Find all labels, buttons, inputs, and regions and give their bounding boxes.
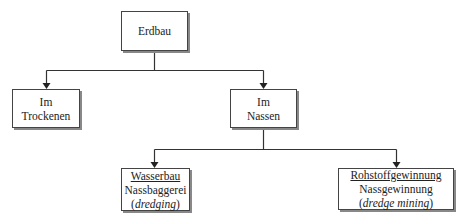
- node-rohstoffgewinnung: Rohstoffgewinnung Nassgewinnung (dredge …: [338, 168, 454, 210]
- node-label-line1: Im: [257, 95, 270, 109]
- node-subtitle: Nassgewinnung: [359, 182, 432, 196]
- node-wasserbau: Wasserbau Nassbaggerei (dredging): [121, 168, 190, 211]
- node-im-trockenen: Im Trockenen: [12, 89, 80, 128]
- node-title: Wasserbau: [131, 169, 181, 183]
- node-im-nassen: Im Nassen: [230, 89, 297, 128]
- node-label-line1: Im: [40, 95, 53, 109]
- node-label-line2: Nassen: [247, 109, 280, 123]
- node-english: (dredge mining): [359, 196, 433, 210]
- node-subtitle: Nassbaggerei: [125, 183, 187, 197]
- node-label: Erdbau: [138, 24, 171, 38]
- node-label-line2: Trockenen: [22, 109, 71, 123]
- node-erdbau: Erdbau: [121, 11, 188, 51]
- node-english: (dredging): [131, 197, 180, 211]
- node-title: Rohstoffgewinnung: [350, 168, 441, 182]
